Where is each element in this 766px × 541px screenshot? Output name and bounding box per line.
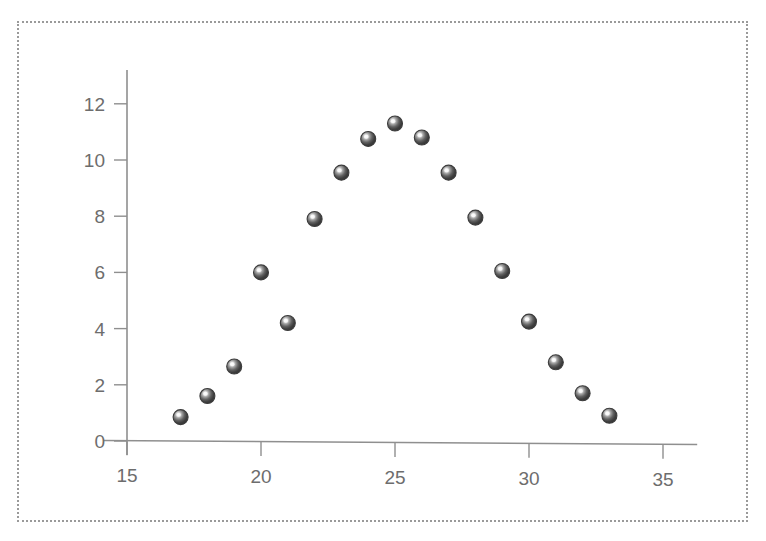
marker-sphere[interactable]: [468, 210, 483, 225]
marker-specular-highlight: [337, 168, 342, 172]
marker-sphere[interactable]: [602, 408, 617, 423]
data-point-marker[interactable]: [254, 265, 269, 280]
x-axis-tick-label: 20: [250, 466, 271, 487]
tick-labels-layer: 0246810121520253035: [84, 94, 674, 490]
y-axis-tick-label: 10: [84, 150, 105, 171]
data-point-marker[interactable]: [280, 315, 295, 330]
marker-sphere[interactable]: [522, 314, 537, 329]
marker-sphere[interactable]: [388, 116, 403, 131]
marker-sphere[interactable]: [280, 315, 295, 330]
scatter-plot-canvas[interactable]: 0246810121520253035: [19, 23, 750, 524]
marker-sphere[interactable]: [414, 130, 429, 145]
data-point-marker[interactable]: [495, 263, 510, 278]
marker-specular-highlight: [284, 319, 289, 323]
x-axis-line: [103, 441, 697, 445]
y-axis-tick-label: 4: [94, 319, 105, 340]
marker-specular-highlight: [391, 119, 396, 123]
y-axis-tick-label: 12: [84, 94, 105, 115]
y-axis-tick-label: 2: [94, 375, 105, 396]
marker-sphere[interactable]: [200, 389, 215, 404]
x-axis-tick-label: 35: [652, 469, 673, 490]
marker-specular-highlight: [605, 412, 610, 416]
data-point-marker[interactable]: [441, 165, 456, 180]
marker-specular-highlight: [552, 358, 557, 362]
marker-specular-highlight: [418, 133, 423, 137]
y-axis-tick-label: 8: [94, 206, 105, 227]
marker-sphere[interactable]: [173, 410, 188, 425]
marker-sphere[interactable]: [334, 165, 349, 180]
data-point-marker[interactable]: [200, 389, 215, 404]
data-point-marker[interactable]: [334, 165, 349, 180]
marker-specular-highlight: [471, 213, 476, 217]
chart-border-frame: 0246810121520253035: [17, 21, 748, 522]
data-point-marker[interactable]: [548, 355, 563, 370]
marker-sphere[interactable]: [254, 265, 269, 280]
data-point-marker[interactable]: [361, 131, 376, 146]
marker-sphere[interactable]: [227, 359, 242, 374]
marker-sphere[interactable]: [575, 386, 590, 401]
x-axis-tick-label: 25: [384, 467, 405, 488]
data-point-marker[interactable]: [575, 386, 590, 401]
data-point-marker[interactable]: [388, 116, 403, 131]
marker-specular-highlight: [525, 317, 530, 321]
x-axis-tick-label: 30: [518, 468, 539, 489]
marker-specular-highlight: [364, 135, 369, 139]
data-point-marker[interactable]: [173, 410, 188, 425]
marker-specular-highlight: [230, 362, 235, 366]
marker-sphere[interactable]: [361, 131, 376, 146]
y-axis-tick-label: 6: [94, 262, 105, 283]
marker-sphere[interactable]: [441, 165, 456, 180]
y-axis-tick-label: 0: [94, 431, 105, 452]
marker-specular-highlight: [203, 392, 208, 396]
data-point-marker[interactable]: [227, 359, 242, 374]
marker-sphere[interactable]: [548, 355, 563, 370]
marker-sphere[interactable]: [307, 212, 322, 227]
marker-specular-highlight: [176, 413, 181, 417]
data-point-marker[interactable]: [522, 314, 537, 329]
data-point-marker[interactable]: [414, 130, 429, 145]
marker-specular-highlight: [310, 215, 315, 219]
data-point-marker[interactable]: [307, 212, 322, 227]
figure-root: 0246810121520253035: [0, 0, 766, 541]
marker-specular-highlight: [498, 267, 503, 271]
marker-sphere[interactable]: [495, 263, 510, 278]
data-points-layer[interactable]: [173, 116, 617, 425]
data-point-marker[interactable]: [468, 210, 483, 225]
data-point-marker[interactable]: [602, 408, 617, 423]
marker-specular-highlight: [444, 168, 449, 172]
marker-specular-highlight: [578, 389, 583, 393]
x-axis-tick-label: 15: [116, 465, 137, 486]
marker-specular-highlight: [257, 268, 262, 272]
